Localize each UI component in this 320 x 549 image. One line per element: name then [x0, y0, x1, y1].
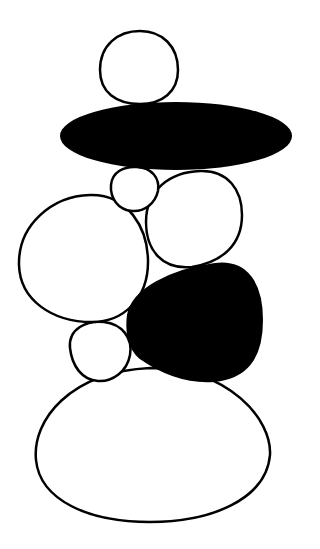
- small-lower-stone: [70, 322, 131, 381]
- cairn-illustration: [0, 0, 320, 549]
- cairn-drawing: [0, 0, 320, 549]
- small-stone: [111, 167, 158, 211]
- top-stone: [100, 31, 178, 104]
- flat-dark-stone: [60, 102, 292, 170]
